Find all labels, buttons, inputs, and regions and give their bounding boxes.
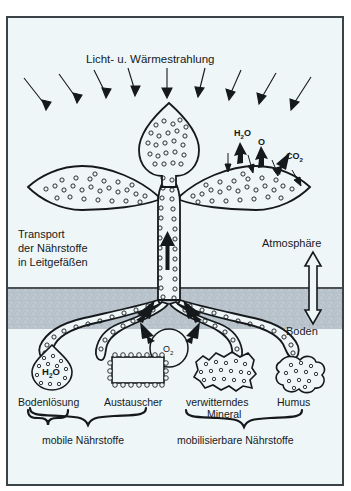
soil-label: Boden — [286, 325, 318, 338]
bodenloesung-inner-label: H2O — [42, 366, 60, 380]
transport-label-line3: in Leitgefäßen — [18, 256, 88, 269]
o2-root-label: O2 — [163, 344, 173, 356]
radiation-arrow-7 — [226, 70, 241, 100]
radiation-label: Licht- u. Wärmestrahlung — [86, 53, 214, 67]
bracket-caption-left: mobile Nährstoffe — [42, 434, 124, 446]
particle-label-humus: Humus — [277, 396, 310, 408]
h2o-label: H2O — [234, 128, 251, 140]
particle-label-verwitterndes: verwitterndes — [186, 396, 248, 408]
radiation-arrow-8 — [257, 73, 276, 104]
transport-label-line2: der Nährstoffe — [18, 242, 88, 255]
particle-label-mineral: Mineral — [207, 408, 241, 420]
grouping-brackets — [28, 408, 302, 427]
atmosphere-label: Atmosphäre — [262, 237, 321, 250]
o-up-arrow — [255, 146, 268, 168]
particle-verwitterndes-mineral — [194, 352, 256, 391]
radiation-arrow-2 — [59, 74, 82, 103]
oxygen-leaf-label: O — [258, 137, 265, 148]
particle-austauscher — [108, 353, 169, 388]
radiation-arrow-3 — [94, 70, 111, 98]
particle-label-bodenloesung: Bodenlösung — [18, 396, 79, 408]
co2-label: CO2 — [286, 151, 303, 163]
transport-label-line1: Transport — [18, 228, 65, 241]
radiation-arrow-5 — [162, 68, 172, 98]
h2o-up-arrow — [234, 142, 247, 164]
bracket-right-wide — [186, 410, 302, 427]
radiation-arrow-4 — [128, 68, 140, 96]
radiation-arrow-9 — [290, 77, 311, 110]
radiation-arrow-1 — [24, 78, 51, 110]
radiation-arrow-6 — [195, 68, 205, 97]
bracket-caption-right: mobilisierbare Nährstoffe — [177, 434, 294, 446]
diagram-page: Licht- u. Wärmestrahlung H2O O CO2 Trans… — [0, 0, 351, 491]
particle-label-austauscher: Austauscher — [104, 396, 162, 408]
particle-humus — [276, 356, 324, 392]
